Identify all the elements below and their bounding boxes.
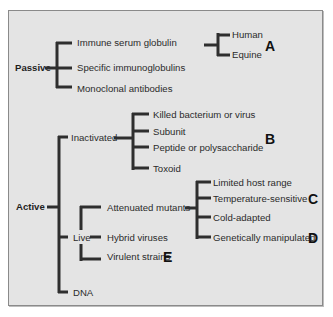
- connector-line: [196, 216, 211, 219]
- marker-a: A: [265, 39, 275, 53]
- bracket-line: [132, 113, 135, 170]
- node-specific-immunoglobulins: Specific immunoglobulins: [77, 63, 185, 73]
- connector-line: [80, 206, 101, 209]
- node-toxoid: Toxoid: [153, 164, 181, 174]
- marker-b: B: [265, 132, 275, 146]
- node-live: Live: [73, 233, 91, 243]
- connector-line: [217, 34, 230, 37]
- bracket-line: [80, 206, 83, 230]
- connector-line: [132, 146, 149, 149]
- node-peptide-or-polysaccharide: Peptide or polysaccharide: [153, 143, 263, 153]
- node-hybrid-viruses: Hybrid viruses: [107, 233, 168, 243]
- node-temperature-sensitive: Temperature-sensitive: [213, 194, 307, 204]
- marker-c: C: [308, 192, 318, 206]
- bracket-line: [56, 42, 59, 88]
- marker-e: E: [163, 250, 172, 264]
- node-subunit: Subunit: [153, 127, 186, 137]
- connector-line: [196, 236, 211, 239]
- node-dna: DNA: [73, 288, 93, 298]
- node-attenuated-mutants: Attenuated mutants: [107, 203, 190, 213]
- connector-line: [132, 130, 149, 133]
- connector-line: [58, 136, 68, 139]
- connector-line: [90, 236, 101, 239]
- bracket-line: [58, 136, 61, 293]
- connector-line: [217, 54, 230, 57]
- connector-line: [80, 258, 101, 261]
- marker-d: D: [308, 231, 318, 245]
- node-killed-bacterium-or-virus: Killed bacterium or virus: [153, 110, 255, 120]
- connector-line: [56, 86, 72, 89]
- connector-line: [132, 167, 149, 170]
- node-cold-adapted: Cold-adapted: [213, 213, 271, 223]
- connector-line: [196, 181, 211, 184]
- connector-line: [56, 67, 72, 70]
- bracket-line: [196, 181, 199, 239]
- node-active: Active: [16, 202, 45, 212]
- node-human: Human: [232, 30, 263, 40]
- connector-line: [56, 42, 72, 45]
- node-inactivated: Inactivated: [71, 133, 117, 143]
- connector-line: [132, 113, 149, 116]
- connector-line: [58, 236, 68, 239]
- node-genetically-manipulated: Genetically manipulated: [213, 233, 315, 243]
- node-immune-serum-globulin: Immune serum globulin: [77, 38, 177, 48]
- node-monoclonal-antibodies: Monoclonal antibodies: [77, 84, 172, 94]
- node-equine: Equine: [232, 50, 262, 60]
- node-virulent-strains: Virulent strains: [107, 252, 170, 262]
- connector-line: [58, 291, 68, 294]
- connector-line: [196, 197, 211, 200]
- node-limited-host-range: Limited host range: [213, 178, 292, 188]
